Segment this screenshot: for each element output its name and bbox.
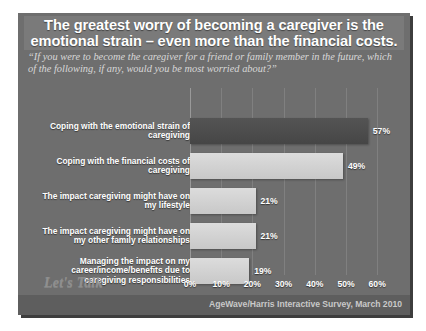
axis-tick-label: 60% (369, 279, 386, 289)
bar (190, 153, 343, 179)
bar-value-label: 49% (348, 153, 365, 179)
gridline-60% (377, 88, 378, 275)
slide-title: The greatest worry of becoming a caregiv… (28, 18, 400, 49)
bar-value-label: 57% (373, 118, 390, 144)
category-label: The impact caregiving might have on my l… (40, 192, 190, 211)
presentation-slide: The greatest worry of becoming a caregiv… (18, 13, 410, 315)
source-attribution: AgeWave/Harris Interactive Survey, March… (209, 299, 402, 309)
category-label: Coping with the financial costs of careg… (40, 157, 190, 176)
bar (190, 188, 256, 214)
bar-chart: Coping with the emotional strain of care… (18, 88, 410, 286)
bar (190, 118, 368, 144)
axis-tick-label: 20% (244, 279, 261, 289)
slide-frame: The greatest worry of becoming a caregiv… (0, 0, 426, 331)
axis-tick-label: 50% (337, 279, 354, 289)
lets-talk-logo: Let's Talk (44, 275, 103, 291)
category-label: The impact caregiving might have on my o… (40, 227, 190, 246)
axis-tick-label: 30% (275, 279, 292, 289)
axis-tick-label: 10% (213, 279, 230, 289)
bar-value-label: 21% (261, 223, 278, 249)
category-label: Coping with the emotional strain of care… (40, 122, 190, 141)
gridline-30% (284, 88, 285, 275)
bar (190, 223, 256, 249)
slide-subtitle: “If you were to become the caregiver for… (28, 51, 402, 75)
footer-band: AgeWave/Harris Interactive Survey, March… (18, 295, 410, 315)
axis-tick-label: 40% (306, 279, 323, 289)
title-band: The greatest worry of becoming a caregiv… (24, 16, 404, 50)
axis-tick-label: 0% (184, 279, 196, 289)
gridline-50% (346, 88, 347, 275)
bar-value-label: 21% (261, 188, 278, 214)
gridline-40% (315, 88, 316, 275)
